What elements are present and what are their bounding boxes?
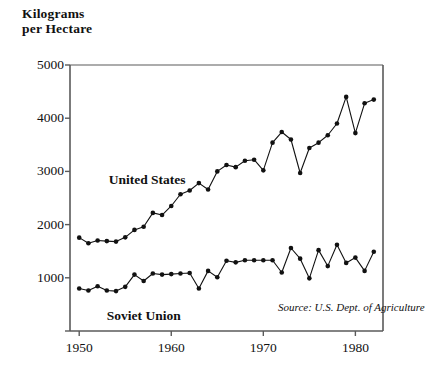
x-tick-label-1970: 1970 [250, 340, 277, 356]
y-tick-label-2000: 2000 [20, 217, 64, 233]
x-tick-label-1960: 1960 [158, 340, 185, 356]
y-tick-label-1000: 1000 [20, 270, 64, 286]
y-axis-tick-labels: 10002000300040005000 [14, 0, 64, 365]
y-tick-label-3000: 3000 [20, 163, 64, 179]
y-tick-label-4000: 4000 [20, 110, 64, 126]
soviet-union-label: Soviet Union [107, 308, 181, 324]
source-note: Source: U.S. Dept. of Agriculture [278, 301, 425, 313]
united-states-label: United States [109, 172, 186, 188]
x-tick-label-1980: 1980 [342, 340, 369, 356]
y-tick-label-5000: 5000 [20, 57, 64, 73]
x-tick-label-1950: 1950 [66, 340, 93, 356]
